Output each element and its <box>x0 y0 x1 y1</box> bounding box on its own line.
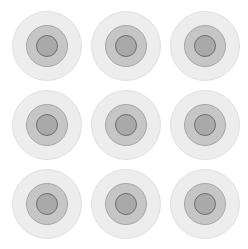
core-circle-icon <box>194 35 216 57</box>
core-circle-icon <box>36 114 58 136</box>
target-grid <box>0 0 248 249</box>
target-r0-c2[interactable] <box>170 11 240 81</box>
core-circle-icon <box>36 35 58 57</box>
target-r1-c2[interactable] <box>170 90 240 160</box>
target-r1-c1[interactable] <box>91 90 161 160</box>
target-r2-c2[interactable] <box>170 169 240 239</box>
target-r0-c1[interactable] <box>91 11 161 81</box>
core-circle-icon <box>115 193 137 215</box>
target-r2-c0[interactable] <box>12 169 82 239</box>
target-r1-c0[interactable] <box>12 90 82 160</box>
core-circle-icon <box>115 114 137 136</box>
core-circle-icon <box>194 114 216 136</box>
core-circle-icon <box>115 35 137 57</box>
target-r2-c1[interactable] <box>91 169 161 239</box>
core-circle-icon <box>36 193 58 215</box>
core-circle-icon <box>194 193 216 215</box>
target-r0-c0[interactable] <box>12 11 82 81</box>
